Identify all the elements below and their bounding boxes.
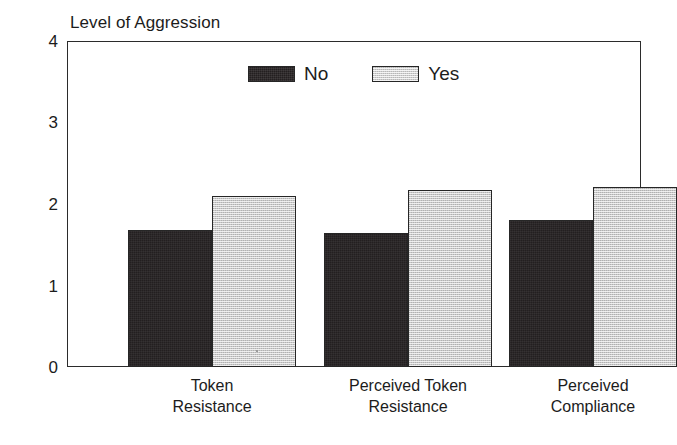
x-label-line: Compliance bbox=[483, 396, 677, 417]
x-label-line: Resistance bbox=[102, 396, 322, 417]
bar-no-group-3 bbox=[509, 220, 593, 368]
x-label-group-1: TokenResistance bbox=[102, 375, 322, 417]
bar-yes-group-2 bbox=[408, 190, 492, 367]
bar-no-group-1 bbox=[128, 230, 212, 367]
legend-item-no: No bbox=[248, 64, 328, 83]
bar-no-group-2 bbox=[324, 233, 408, 367]
x-axis-labels: TokenResistancePerceived TokenResistance… bbox=[0, 375, 677, 435]
x-label-line: Perceived bbox=[483, 375, 677, 396]
x-label-line: Token bbox=[102, 375, 322, 396]
chart-legend: No Yes bbox=[248, 64, 459, 83]
legend-swatch-no-icon bbox=[248, 66, 295, 82]
x-label-group-3: PerceivedCompliance bbox=[483, 375, 677, 417]
legend-swatch-yes-icon bbox=[372, 66, 419, 82]
bar-chart: Level of Aggression 4 3 2 1 0 No Yes Tok… bbox=[0, 0, 677, 445]
bar-yes-group-1 bbox=[212, 196, 296, 367]
bar-yes-group-3 bbox=[593, 187, 677, 367]
legend-item-yes: Yes bbox=[372, 64, 459, 83]
legend-label-yes: Yes bbox=[428, 64, 459, 83]
scan-artifact bbox=[256, 350, 258, 352]
legend-label-no: No bbox=[304, 64, 328, 83]
